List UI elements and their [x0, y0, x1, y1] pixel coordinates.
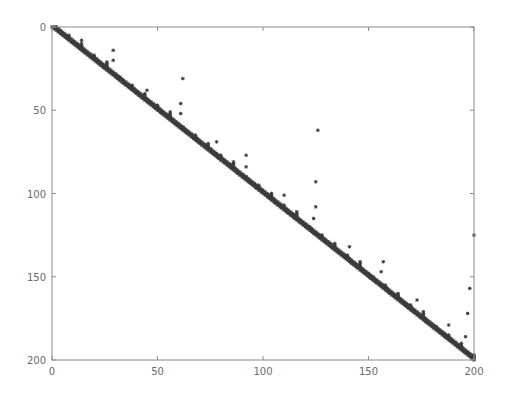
spy-plot: 0 50 100 150 200 0 50 100 150 200	[0, 0, 505, 396]
y-tick-label: 50	[33, 105, 46, 116]
x-tick-label: 0	[49, 366, 55, 377]
y-tick-label: 200	[27, 355, 46, 366]
sparsity-markers	[50, 25, 476, 362]
y-tick-label: 100	[27, 189, 46, 200]
x-tick-label: 100	[253, 366, 272, 377]
y-tick-label: 0	[40, 22, 46, 33]
x-tick-label: 50	[151, 366, 164, 377]
x-tick-label: 200	[464, 366, 483, 377]
y-tick-label: 150	[27, 272, 46, 283]
x-axis-tick-labels: 0 50 100 150 200	[49, 366, 484, 377]
x-tick-label: 150	[359, 366, 378, 377]
y-axis-tick-labels: 0 50 100 150 200	[27, 22, 46, 366]
